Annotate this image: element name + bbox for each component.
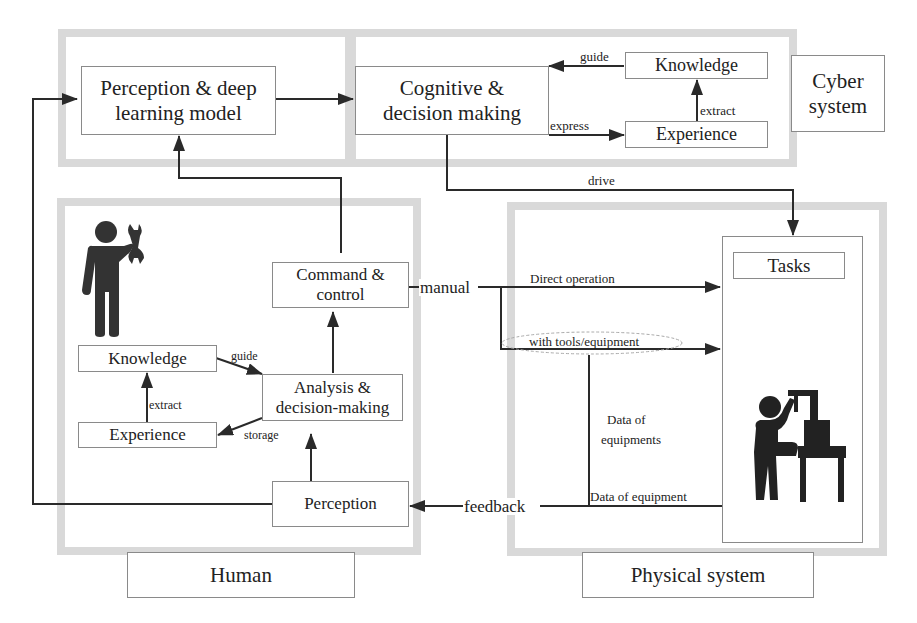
cyber-knowledge-text: Knowledge bbox=[655, 55, 738, 76]
data-of-equipment-label: Data of equipment bbox=[590, 490, 687, 503]
perception-dl-line1: Perception & deep bbox=[100, 76, 256, 100]
analysis-decision-node: Analysis & decision-making bbox=[262, 374, 403, 421]
cyber-extract-label: extract bbox=[700, 104, 735, 117]
human-storage-label: storage bbox=[244, 429, 279, 441]
cyber-experience-text: Experience bbox=[656, 124, 737, 145]
human-knowledge-text: Knowledge bbox=[108, 349, 186, 369]
manual-label: manual bbox=[419, 279, 471, 296]
cognitive-line2: decision making bbox=[383, 101, 521, 125]
perception-dl-line2: learning model bbox=[115, 101, 242, 125]
command-control-node: Command & control bbox=[272, 262, 409, 308]
tasks-node: Tasks bbox=[733, 252, 845, 279]
command-line1: Command & bbox=[296, 265, 384, 285]
human-experience-node: Experience bbox=[78, 422, 217, 448]
feedback-label: feedback bbox=[463, 498, 526, 515]
analysis-line1: Analysis & bbox=[294, 378, 371, 398]
human-guide-label: guide bbox=[231, 350, 258, 362]
cyber-experience-node: Experience bbox=[625, 121, 768, 148]
perception-node: Perception bbox=[272, 481, 409, 527]
perception-text: Perception bbox=[304, 494, 377, 514]
cyber-knowledge-node: Knowledge bbox=[625, 52, 768, 79]
perception-deep-learning-node: Perception & deep learning model bbox=[81, 66, 276, 135]
human-extract-label: extract bbox=[149, 399, 182, 411]
data-of-equipments-label-1: Data of bbox=[607, 413, 646, 426]
person-with-wrench-icon bbox=[78, 218, 158, 338]
cognitive-line1: Cognitive & bbox=[400, 76, 504, 100]
cyber-express-label: express bbox=[550, 119, 589, 132]
command-line2: control bbox=[316, 285, 364, 305]
tasks-text: Tasks bbox=[767, 255, 810, 277]
cyber-guide-label: guide bbox=[580, 50, 609, 63]
human-experience-text: Experience bbox=[109, 425, 185, 445]
data-of-equipments-label-2: equipments bbox=[601, 433, 661, 446]
analysis-line2: decision-making bbox=[276, 398, 389, 418]
cognitive-decision-node: Cognitive & decision making bbox=[355, 66, 549, 135]
direct-operation-label: Direct operation bbox=[530, 272, 615, 285]
human-knowledge-node: Knowledge bbox=[78, 345, 217, 372]
with-tools-label: with tools/equipment bbox=[529, 335, 639, 348]
drive-label: drive bbox=[588, 174, 615, 187]
person-operating-machine-icon bbox=[748, 390, 848, 505]
